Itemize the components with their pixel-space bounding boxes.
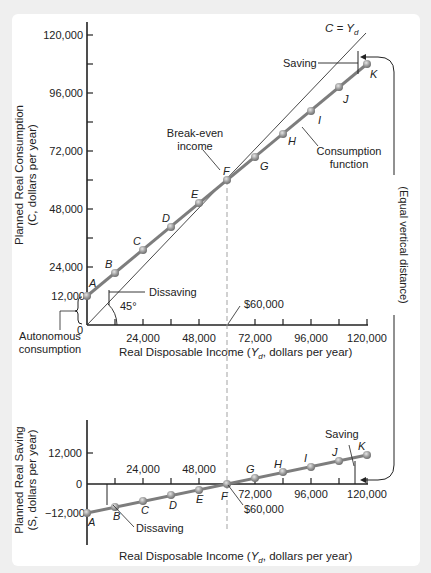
svg-text:96,000: 96,000 — [49, 87, 83, 99]
svg-text:I: I — [304, 452, 307, 464]
x-tick-labels: 24,000 48,000 72,000 96,000 120,000 — [126, 332, 387, 344]
svg-text:A: A — [87, 516, 95, 528]
c-equals-yd-label: C = Yd — [325, 22, 359, 37]
svg-text:A: A — [88, 277, 96, 289]
svg-text:F: F — [221, 490, 229, 502]
svg-text:E: E — [191, 188, 199, 200]
svg-text:K: K — [358, 440, 366, 452]
saving-label-bottom: Saving — [325, 428, 359, 440]
svg-text:H: H — [274, 458, 282, 470]
svg-text:120,000: 120,000 — [43, 29, 83, 41]
y-tick-labels: 120,000 96,000 72,000 48,000 24,000 12,0… — [43, 29, 85, 336]
dissaving-label-bottom: Dissaving — [136, 522, 184, 534]
svg-text:G: G — [260, 160, 269, 172]
svg-text:E: E — [196, 493, 204, 505]
svg-text:12,000: 12,000 — [48, 447, 82, 459]
svg-text:48,000: 48,000 — [182, 332, 216, 344]
svg-text:J: J — [342, 93, 349, 105]
consumption-point-labels: A B C D E F G H I J K — [88, 68, 378, 289]
svg-text:G: G — [246, 463, 255, 475]
consumption-function-label: Consumption — [317, 145, 382, 157]
svg-text:24,000: 24,000 — [126, 332, 160, 344]
svg-text:B: B — [105, 258, 112, 270]
svg-text:(S, dollars per year): (S, dollars per year) — [26, 429, 38, 530]
equal-vertical-distance-label: (Equal vertical distance) — [398, 186, 410, 303]
svg-text:72,000: 72,000 — [49, 145, 83, 157]
svg-text:Planned Real Consumption: Planned Real Consumption — [13, 105, 25, 245]
autonomous-consumption-label: Autonomous — [19, 330, 81, 342]
svg-text:C: C — [141, 504, 149, 516]
svg-text:0: 0 — [76, 478, 82, 490]
svg-text:72,000: 72,000 — [238, 488, 272, 500]
saving-y-tick-labels: 12,000 0 −12,000 — [45, 447, 85, 519]
saving-x-axis-title: Real Disposable Income (Yd, dollars per … — [119, 550, 352, 565]
svg-text:consumption: consumption — [19, 343, 81, 355]
svg-text:−12,000: −12,000 — [45, 507, 85, 519]
svg-text:J: J — [331, 446, 338, 458]
svg-text:H: H — [288, 135, 296, 147]
svg-text:48,000: 48,000 — [49, 203, 83, 215]
x-axis-title: Real Disposable Income (Yd, dollars per … — [119, 346, 352, 361]
x-ticks — [115, 319, 367, 325]
svg-text:K: K — [370, 68, 378, 80]
svg-text:Planned Real Saving: Planned Real Saving — [13, 426, 25, 533]
dissaving-label-top: Dissaving — [149, 286, 197, 298]
svg-text:120,000: 120,000 — [347, 488, 387, 500]
svg-text:120,000: 120,000 — [347, 332, 387, 344]
svg-text:72,000: 72,000 — [238, 332, 272, 344]
svg-text:(C, dollars per year): (C, dollars per year) — [26, 124, 38, 226]
saving-label-top: Saving — [283, 57, 317, 69]
break-even-income-label-bottom: $60,000 — [244, 503, 284, 515]
saving-chart: 12,000 0 −12,000 24,000 48,000 72,000 96… — [13, 420, 387, 565]
equal-distance-connector: (Equal vertical distance) — [360, 54, 410, 483]
svg-text:24,000: 24,000 — [126, 463, 160, 475]
break-even-label: Break-even — [167, 127, 223, 139]
svg-text:function: function — [330, 158, 369, 170]
break-even-income-label: $60,000 — [244, 298, 284, 310]
svg-text:96,000: 96,000 — [294, 488, 328, 500]
y-axis-title: Planned Real Consumption (C, dollars per… — [13, 105, 38, 245]
svg-text:96,000: 96,000 — [294, 332, 328, 344]
y-ticks — [87, 35, 93, 267]
svg-text:income: income — [177, 140, 212, 152]
saving-y-axis-title: Planned Real Saving (S, dollars per year… — [13, 426, 38, 533]
angle-label: 45° — [120, 300, 137, 312]
svg-text:24,000: 24,000 — [49, 261, 83, 273]
consumption-saving-figure: 120,000 96,000 72,000 48,000 24,000 12,0… — [0, 0, 431, 573]
svg-text:I: I — [318, 114, 321, 126]
svg-text:D: D — [169, 499, 177, 511]
svg-text:C: C — [133, 235, 141, 247]
svg-text:48,000: 48,000 — [182, 463, 216, 475]
svg-text:12,000: 12,000 — [51, 290, 85, 302]
svg-text:D: D — [162, 212, 170, 224]
